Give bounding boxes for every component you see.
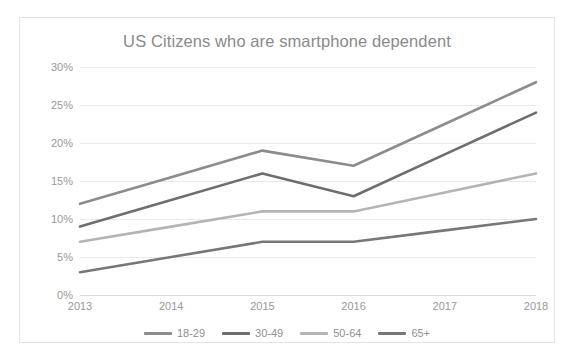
legend-swatch-icon bbox=[144, 332, 172, 335]
y-axis-tick-label: 20% bbox=[51, 137, 73, 149]
legend-label: 18-29 bbox=[177, 327, 205, 339]
chart-legend: 18-2930-4950-6465+ bbox=[20, 327, 554, 339]
series-line bbox=[80, 113, 536, 227]
plot-area: 0%5%10%15%20%25%30% bbox=[80, 67, 536, 295]
chart-title: US Citizens who are smartphone dependent bbox=[20, 32, 554, 51]
y-axis-tick-label: 30% bbox=[51, 61, 73, 73]
x-axis-tick-label: 2017 bbox=[433, 300, 457, 312]
x-axis-tick-label: 2016 bbox=[341, 300, 365, 312]
legend-label: 65+ bbox=[411, 327, 430, 339]
x-axis-tick-label: 2015 bbox=[250, 300, 274, 312]
legend-label: 30-49 bbox=[255, 327, 283, 339]
series-lines bbox=[80, 67, 536, 295]
x-axis-line bbox=[80, 295, 536, 296]
x-axis-tick-label: 2013 bbox=[68, 300, 92, 312]
y-axis-tick-label: 25% bbox=[51, 99, 73, 111]
chart-container: US Citizens who are smartphone dependent… bbox=[19, 17, 555, 343]
x-axis-tick-label: 2018 bbox=[524, 300, 548, 312]
legend-swatch-icon bbox=[378, 332, 406, 335]
legend-swatch-icon bbox=[300, 332, 328, 335]
x-axis-tick-label: 2014 bbox=[159, 300, 183, 312]
y-axis-tick-label: 10% bbox=[51, 213, 73, 225]
legend-item[interactable]: 50-64 bbox=[300, 327, 361, 339]
legend-swatch-icon bbox=[222, 332, 250, 335]
legend-item[interactable]: 65+ bbox=[378, 327, 430, 339]
legend-item[interactable]: 30-49 bbox=[222, 327, 283, 339]
y-axis-tick-label: 15% bbox=[51, 175, 73, 187]
legend-label: 50-64 bbox=[333, 327, 361, 339]
y-axis-tick-label: 5% bbox=[57, 251, 73, 263]
legend-item[interactable]: 18-29 bbox=[144, 327, 205, 339]
series-line bbox=[80, 219, 536, 272]
